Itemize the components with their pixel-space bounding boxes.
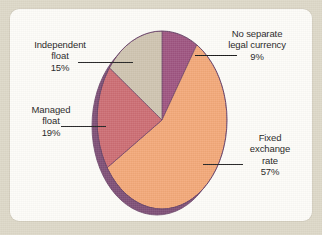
slice-label-percent: 19%: [6, 127, 96, 139]
slice-label-text: No separate legal currency: [228, 28, 286, 51]
slice-label-text: Managed float: [32, 104, 71, 127]
slice-label-managed-float: Managed float 19%: [6, 92, 96, 150]
slice-label-percent: 57%: [230, 166, 310, 178]
slice-label-percent: 15%: [14, 62, 106, 74]
slice-label-text: Independent float: [34, 39, 86, 62]
slice-label-text: Fixed exchange rate: [250, 132, 290, 166]
slice-label-no-separate-legal-currency: No separate legal currency 9%: [208, 16, 306, 74]
slice-label-fixed-exchange-rate: Fixed exchange rate 57%: [230, 120, 310, 189]
slice-label-percent: 9%: [208, 51, 306, 63]
page-background: No separate legal currency 9% Independen…: [0, 0, 322, 235]
slice-label-independent-float: Independent float 15%: [14, 27, 106, 85]
